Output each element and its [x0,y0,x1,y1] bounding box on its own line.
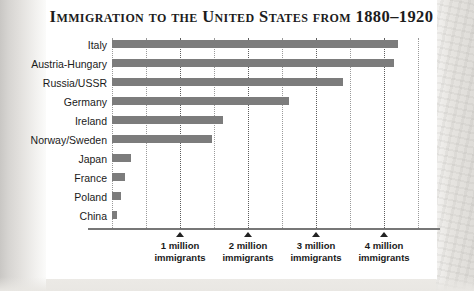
category-label: Norway/Sweden [31,134,107,146]
category-axis-labels: ItalyAustria-HungaryRussia/USSRGermanyIr… [46,38,437,228]
tick-label: 4 millionimmigrants [339,240,429,263]
tick-label-line: 4 million [339,240,429,252]
tick-label-line: immigrants [339,252,429,264]
category-label: Italy [88,39,107,51]
category-label: Russia/USSR [43,77,107,89]
category-label: China [80,210,107,222]
tick-triangle [380,232,388,237]
page-margin-texture-right [436,0,474,291]
category-label: France [74,172,107,184]
chart-figure: Immigration to the United States from 18… [46,0,437,279]
x-axis-line [88,228,440,230]
category-label: Germany [64,96,107,108]
tick-triangle [312,232,320,237]
category-label: Ireland [75,115,107,127]
category-label: Poland [74,191,107,203]
category-label: Austria-Hungary [31,58,107,70]
category-label: Japan [78,153,107,165]
tick-triangle [244,232,252,237]
page-margin-texture-bottom [0,277,474,291]
tick-triangle [176,232,184,237]
chart-title: Immigration to the United States from 18… [46,7,437,27]
